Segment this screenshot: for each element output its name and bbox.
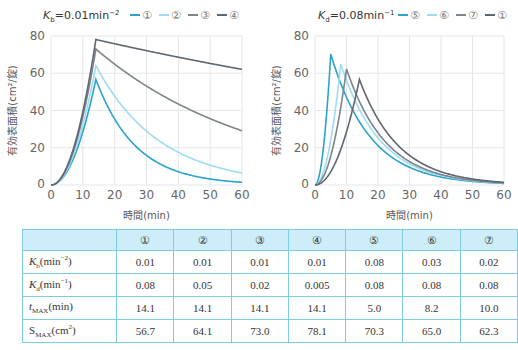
legend-item: ②	[159, 9, 181, 22]
y-tick-label: 60	[294, 66, 309, 80]
table-cell: 14.1	[288, 297, 345, 320]
x-tick-label: 40	[171, 188, 186, 202]
x-axis-label: 時間(min)	[386, 210, 433, 221]
table-header-cell: ①	[117, 230, 174, 251]
table-cell: 0.02	[460, 251, 517, 274]
legend-item: ⑥	[427, 9, 449, 22]
chart-title: Kd=0.08min−1	[318, 9, 394, 24]
y-tick-label: 40	[30, 104, 45, 118]
table-cell: 5.0	[346, 297, 403, 320]
x-axis-label: 時間(min)	[123, 210, 170, 221]
legend-item: ③	[188, 9, 210, 22]
table-cell: 65.0	[403, 320, 460, 343]
table-cell: 78.1	[288, 320, 345, 343]
y-tick-label: 0	[37, 177, 45, 191]
legend-item: ⑤	[398, 9, 420, 22]
parameter-table: ①②③④⑤⑥⑦Kb(min−2)0.010.010.010.010.080.03…	[22, 229, 518, 343]
table-cell: 73.0	[231, 320, 288, 343]
table-cell: 14.1	[231, 297, 288, 320]
row-label: SMAX(cm2)	[23, 320, 117, 343]
table-cell: 0.08	[346, 274, 403, 297]
x-tick-label: 60	[234, 188, 249, 202]
y-axis-label: 有効表面積(cm²/錠)	[6, 65, 18, 156]
table-cell: 0.08	[460, 274, 517, 297]
svg-text:③: ③	[200, 9, 210, 22]
table-cell: 0.02	[231, 274, 288, 297]
svg-text:②: ②	[171, 9, 181, 22]
legend-item: ①	[485, 9, 507, 22]
table-cell: 10.0	[460, 297, 517, 320]
table-cell: 70.3	[346, 320, 403, 343]
table-cell: 0.08	[403, 274, 460, 297]
svg-text:④: ④	[229, 9, 239, 22]
chart-2: 0102030405060020406080時間(min)有効表面積(cm²/錠…	[270, 9, 512, 221]
legend-item: ①	[130, 9, 152, 22]
table-cell: 0.005	[288, 274, 345, 297]
table-cell: 14.1	[174, 297, 231, 320]
legend-item: ④	[217, 9, 239, 22]
y-tick-label: 0	[301, 177, 309, 191]
y-tick-label: 80	[30, 29, 45, 43]
table-cell: 0.01	[174, 251, 231, 274]
table-header-cell: ⑤	[346, 230, 403, 251]
table-cell: 62.3	[460, 320, 517, 343]
x-tick-label: 10	[339, 188, 354, 202]
row-label: Kb(min−2)	[23, 251, 117, 274]
table-cell: 0.03	[403, 251, 460, 274]
chart-title: Kb=0.01min−2	[43, 9, 119, 24]
svg-text:⑦: ⑦	[468, 9, 478, 22]
table-row: Kd(min−1)0.080.050.020.0050.080.080.08	[23, 274, 518, 297]
table-header-cell: ⑦	[460, 230, 517, 251]
y-axis-label: 有効表面積(cm²/錠)	[270, 65, 282, 156]
table-header-cell: ②	[174, 230, 231, 251]
x-tick-label: 30	[139, 188, 154, 202]
table-cell: 0.05	[174, 274, 231, 297]
y-tick-label: 20	[294, 141, 309, 155]
x-tick-label: 50	[465, 188, 480, 202]
table-header-row: ①②③④⑤⑥⑦	[23, 230, 518, 251]
y-tick-label: 40	[294, 104, 309, 118]
table-cell: 0.01	[288, 251, 345, 274]
chart-1: 0102030405060020406080時間(min)有効表面積(cm²/錠…	[6, 9, 250, 221]
svg-text:①: ①	[497, 9, 507, 22]
x-tick-label: 20	[370, 188, 385, 202]
table-row: Kb(min−2)0.010.010.010.010.080.030.02	[23, 251, 518, 274]
table-cell: 0.01	[231, 251, 288, 274]
table-cell: 0.08	[346, 251, 403, 274]
x-tick-label: 40	[433, 188, 448, 202]
svg-text:⑤: ⑤	[410, 9, 420, 22]
table-row: SMAX(cm2)56.764.173.078.170.365.062.3	[23, 320, 518, 343]
svg-text:⑥: ⑥	[439, 9, 449, 22]
x-tick-label: 30	[402, 188, 417, 202]
table-cell: 64.1	[174, 320, 231, 343]
y-tick-label: 60	[30, 66, 45, 80]
table-cell: 14.1	[117, 297, 174, 320]
table-header-cell: ④	[288, 230, 345, 251]
x-tick-label: 10	[75, 188, 90, 202]
svg-text:①: ①	[142, 9, 152, 22]
table-cell: 0.08	[117, 274, 174, 297]
x-tick-label: 50	[203, 188, 218, 202]
table-row: tMAX(min)14.114.114.114.15.08.210.0	[23, 297, 518, 320]
x-tick-label: 60	[496, 188, 511, 202]
row-label: tMAX(min)	[23, 297, 117, 320]
table-header-cell: ③	[231, 230, 288, 251]
table-cell: 0.01	[117, 251, 174, 274]
charts-area: 0102030405060020406080時間(min)有効表面積(cm²/錠…	[0, 0, 518, 225]
table-cell: 56.7	[117, 320, 174, 343]
legend-item: ⑦	[456, 9, 478, 22]
y-tick-label: 80	[294, 29, 309, 43]
table-header-cell: ⑥	[403, 230, 460, 251]
x-tick-label: 0	[47, 188, 55, 202]
row-label: Kd(min−1)	[23, 274, 117, 297]
table-header-cell	[23, 230, 117, 251]
table-cell: 8.2	[403, 297, 460, 320]
x-tick-label: 20	[107, 188, 122, 202]
x-tick-label: 0	[311, 188, 319, 202]
y-tick-label: 20	[30, 141, 45, 155]
